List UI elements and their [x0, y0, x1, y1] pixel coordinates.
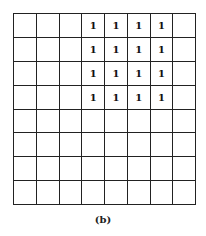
grid-cell — [173, 133, 196, 157]
figure-caption: (b) — [0, 214, 206, 225]
grid-cell — [173, 62, 196, 86]
grid-cell — [37, 14, 60, 38]
grid-cell — [37, 110, 60, 134]
grid-cell — [60, 181, 83, 205]
grid-cell — [105, 110, 128, 134]
grid-cell: 1 — [82, 86, 105, 110]
grid-cell — [151, 133, 174, 157]
grid-cell — [37, 86, 60, 110]
grid-cell — [14, 157, 37, 181]
grid-cell: 1 — [105, 38, 128, 62]
grid-cell — [82, 181, 105, 205]
grid-cell: 1 — [105, 62, 128, 86]
grid-cell — [82, 157, 105, 181]
grid-cell — [60, 14, 83, 38]
grid-cell — [128, 133, 151, 157]
grid-cell — [173, 38, 196, 62]
grid-cell — [128, 157, 151, 181]
grid-cell — [14, 110, 37, 134]
grid-cell — [82, 133, 105, 157]
grid-cell: 1 — [82, 38, 105, 62]
grid-cell: 1 — [82, 62, 105, 86]
grid-cell: 1 — [151, 38, 174, 62]
grid-cell: 1 — [151, 62, 174, 86]
grid-cell — [14, 86, 37, 110]
grid-cell: 1 — [128, 86, 151, 110]
grid-cell — [60, 133, 83, 157]
grid-cell — [173, 86, 196, 110]
grid-cell — [151, 181, 174, 205]
grid-cell — [37, 157, 60, 181]
grid-cell — [173, 157, 196, 181]
grid-cell: 1 — [82, 14, 105, 38]
grid-cell — [14, 14, 37, 38]
grid-cell: 1 — [128, 14, 151, 38]
grid-cell — [37, 62, 60, 86]
grid-cell — [60, 62, 83, 86]
grid-cell — [60, 157, 83, 181]
grid-cell — [14, 62, 37, 86]
grid-cell — [60, 110, 83, 134]
grid-cell — [151, 110, 174, 134]
grid-cell — [173, 14, 196, 38]
grid-cell: 1 — [105, 86, 128, 110]
grid-cell — [14, 133, 37, 157]
grid-cell — [105, 157, 128, 181]
grid-cell — [151, 157, 174, 181]
grid-cell — [82, 110, 105, 134]
grid-cell: 1 — [151, 86, 174, 110]
grid-cell: 1 — [128, 62, 151, 86]
grid-cell — [60, 86, 83, 110]
grid-cell — [173, 181, 196, 205]
grid-cell — [173, 110, 196, 134]
grid-cell — [128, 110, 151, 134]
grid-cell: 1 — [128, 38, 151, 62]
grid-cell — [37, 133, 60, 157]
grid-cell — [105, 181, 128, 205]
grid-cell: 1 — [105, 14, 128, 38]
grid-cell — [60, 38, 83, 62]
grid-cell: 1 — [151, 14, 174, 38]
binary-grid: 1111111111111111 — [13, 13, 196, 205]
grid-cell — [37, 181, 60, 205]
grid-cell — [105, 133, 128, 157]
grid-cell — [14, 181, 37, 205]
grid-cell — [128, 181, 151, 205]
grid-cell — [14, 38, 37, 62]
grid-cell — [37, 38, 60, 62]
